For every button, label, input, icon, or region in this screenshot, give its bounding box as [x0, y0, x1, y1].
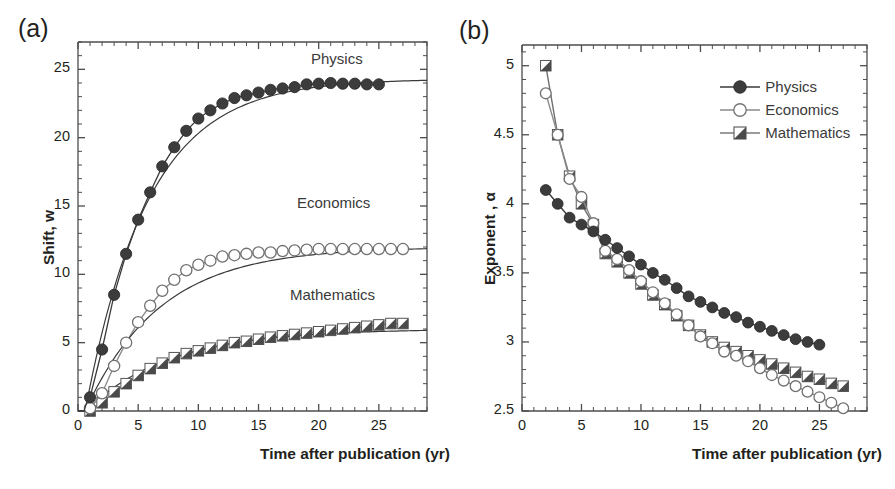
- panel-b-xtick-label: 0: [497, 417, 547, 433]
- legend-label-mathematics: Mathematics: [765, 124, 850, 141]
- panel-b-xaxis-title: Time after publication (yr): [692, 445, 882, 463]
- panel-b-plot: [447, 0, 895, 489]
- panel-a-ytick-label: 25: [30, 59, 70, 75]
- panel-a-xtick-label: 25: [354, 417, 404, 433]
- panel-a-series-label-economics: Economics: [297, 194, 370, 211]
- panel-a-ytick-label: 20: [30, 128, 70, 144]
- panel-b-yaxis-title: Exponent , α: [481, 192, 499, 285]
- legend-label-physics: Physics: [765, 78, 817, 95]
- panel-a: (a) 0 5 10 15 20 25 0 5 10 15 20 25 Time…: [0, 0, 448, 489]
- panel-b-ytick-label: 4.5: [474, 125, 514, 141]
- panel-a-xtick-label: 5: [113, 417, 163, 433]
- panel-b-ytick-label: 2.5: [474, 401, 514, 417]
- panel-b-xtick-label: 25: [794, 417, 844, 433]
- legend-marker-mathematics: [718, 123, 762, 143]
- panel-a-series-label-physics: Physics: [311, 50, 363, 67]
- panel-a-xaxis-title: Time after publication (yr): [260, 445, 450, 463]
- panel-a-xtick-label: 10: [173, 417, 223, 433]
- panel-a-yaxis-title: Shift, w: [40, 210, 58, 265]
- figure-root: (a) 0 5 10 15 20 25 0 5 10 15 20 25 Time…: [0, 0, 895, 489]
- legend-marker-economics: [718, 100, 762, 120]
- panel-b-xtick-label: 15: [675, 417, 725, 433]
- panel-b-xtick-label: 20: [735, 417, 785, 433]
- legend-label-economics: Economics: [765, 101, 838, 118]
- panel-a-xtick-label: 0: [53, 417, 103, 433]
- panel-b-ytick-label: 3: [474, 332, 514, 348]
- panel-a-ytick-label: 5: [30, 333, 70, 349]
- panel-a-xtick-label: 20: [294, 417, 344, 433]
- panel-b-xtick-label: 5: [556, 417, 606, 433]
- panel-a-ytick-label: 0: [30, 401, 70, 417]
- panel-a-xtick-label: 15: [234, 417, 284, 433]
- legend-item-mathematics: Mathematics: [718, 121, 850, 144]
- panel-b: (b) 2.5 3 3.5 4 4.5 5 0 5 10 15 20 25 Ti…: [447, 0, 895, 489]
- panel-a-series-label-mathematics: Mathematics: [290, 286, 375, 303]
- panel-b-legend: Physics Economics Mathematics: [718, 75, 850, 144]
- panel-b-ytick-label: 5: [474, 56, 514, 72]
- panel-a-ytick-label: 10: [30, 264, 70, 280]
- legend-marker-physics: [718, 77, 762, 97]
- legend-item-economics: Economics: [718, 98, 850, 121]
- panel-b-xtick-label: 10: [616, 417, 666, 433]
- legend-item-physics: Physics: [718, 75, 850, 98]
